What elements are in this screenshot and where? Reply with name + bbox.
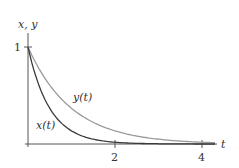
series-y-curve	[28, 47, 215, 143]
x-axis-label: t	[221, 138, 226, 151]
x-tick-label-2: 2	[111, 151, 118, 164]
x-tick-label-4: 4	[198, 151, 205, 164]
series-x-curve	[28, 47, 215, 144]
chart: x, y t 1 2 4 y(t) x(t)	[0, 0, 239, 168]
y-axis-label: x, y	[18, 18, 38, 31]
series-x-label: x(t)	[36, 119, 55, 132]
series-y-label: y(t)	[72, 91, 92, 104]
y-tick-label-1: 1	[14, 41, 21, 54]
